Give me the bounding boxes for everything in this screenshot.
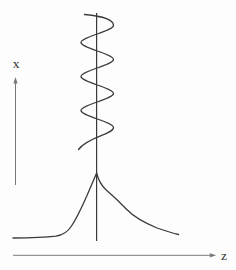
wavepacket-diagram: x z — [0, 0, 236, 270]
x-axis: x — [13, 56, 20, 185]
z-axis-label: z — [221, 248, 227, 263]
z-axis-arrowhead-icon — [210, 253, 216, 257]
z-axis: z — [13, 248, 227, 263]
peaked-envelope-curve — [13, 173, 179, 238]
x-axis-arrowhead-icon — [13, 77, 17, 83]
figure-canvas: x z — [0, 0, 236, 270]
x-axis-label: x — [13, 56, 20, 71]
